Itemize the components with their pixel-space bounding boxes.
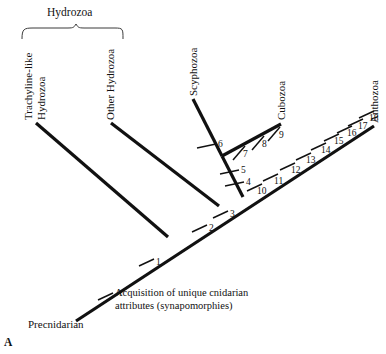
character-tick-marks	[98, 111, 374, 300]
tick-label-17: 17	[358, 121, 368, 131]
tick-label-4: 4	[246, 177, 251, 187]
synapomorphy-caption-line-2: attributes (synapomorphies)	[115, 300, 233, 311]
hydrozoa-bracket	[22, 24, 123, 39]
tick-label-10: 10	[257, 186, 267, 196]
figure-panel: 1 2 3 4 5 6 7 8 9 10 11 12 13 14 15 16 1…	[0, 0, 386, 354]
tick-mark-1	[139, 259, 154, 266]
tick-label-7: 7	[243, 149, 248, 159]
branch-scyphozoa-cubozoa-stem	[222, 156, 243, 197]
taxon-label-cubozoa: Cubozoa	[275, 81, 288, 120]
taxon-label-line-2: Hydrozoa	[35, 77, 47, 120]
taxon-label-scyphozoa: Scyphozoa	[187, 48, 200, 96]
character-tick-labels: 1 2 3 4 5 6 7 8 9 10 11 12 13 14 15 16 1…	[156, 113, 379, 267]
taxon-label-trachyline-like-hydrozoa: Trachyline-like Hydrozoa	[22, 53, 47, 120]
tick-label-1: 1	[156, 257, 161, 267]
root-label-precnidarian: Precnidarian	[28, 318, 84, 330]
tick-mark-2	[192, 225, 207, 232]
tick-label-3: 3	[230, 209, 235, 219]
tick-label-16: 16	[347, 128, 357, 138]
tick-label-15: 15	[334, 136, 344, 146]
tick-label-5: 5	[241, 165, 246, 175]
taxon-label-line-1: Trachyline-like	[22, 53, 34, 120]
synapomorphy-caption: Acquisition of unique cnidarian attribut…	[115, 286, 248, 312]
taxon-label-other-hydrozoa: Other Hydrozoa	[104, 49, 117, 120]
tick-label-14: 14	[321, 145, 331, 155]
clade-label-hydrozoa: Hydrozoa	[47, 6, 92, 18]
taxon-label-anthozoa: Anthozoa	[368, 80, 381, 123]
tick-label-13: 13	[306, 155, 316, 165]
tick-mark-6	[197, 144, 216, 148]
tick-label-12: 12	[291, 165, 301, 175]
tick-label-9: 9	[279, 130, 284, 140]
branch-other-hydrozoa	[111, 123, 219, 206]
panel-label: A	[4, 336, 12, 348]
branch-cubozoa	[222, 124, 281, 156]
tick-label-2: 2	[209, 223, 214, 233]
branch-trachyline-hydrozoa	[36, 123, 168, 237]
synapomorphy-caption-line-1: Acquisition of unique cnidarian	[115, 287, 248, 298]
tick-label-6: 6	[218, 139, 223, 149]
tick-mark-3	[213, 211, 228, 218]
tick-label-8: 8	[262, 139, 267, 149]
tick-label-11: 11	[274, 176, 283, 186]
